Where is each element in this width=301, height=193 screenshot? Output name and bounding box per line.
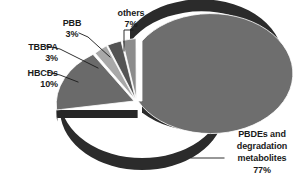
slice-label-hbcds-pct: 10% [6,79,58,90]
slice-pbdes-and-degradation-metabolites[interactable] [138,14,293,134]
slice-label-pbdes-line3: metabolites [226,152,298,164]
slice-label-others: others 7% [108,8,154,30]
slice-label-hbcds-name: HBCDs [6,68,58,79]
slice-label-pbdes: PBDEs and degradation metabolites 77% [226,128,298,176]
slice-label-tbbpa: TBBPA 3% [6,42,58,64]
slice-label-others-pct: 7% [108,19,154,30]
slice-label-others-name: others [108,8,154,19]
slice-label-tbbpa-pct: 3% [6,53,58,64]
slice-label-pbb-name: PBB [52,18,92,29]
slice-label-pbdes-line4: 77% [226,164,298,176]
slice-label-tbbpa-name: TBBPA [6,42,58,53]
slice-side-hbcds-2 [57,110,138,118]
slice-label-pbb: PBB 3% [52,18,92,40]
slice-label-pbb-pct: 3% [52,29,92,40]
pie-chart-figure: HBCDs 10% TBBPA 3% PBB 3% others 7% PBDE… [0,0,301,193]
slice-label-pbdes-line1: PBDEs and [226,128,298,140]
slice-label-hbcds: HBCDs 10% [6,68,58,90]
slice-label-pbdes-line2: degradation [226,140,298,152]
